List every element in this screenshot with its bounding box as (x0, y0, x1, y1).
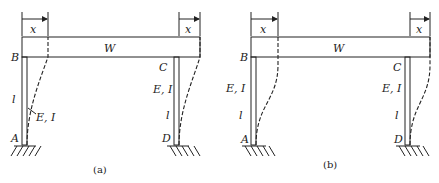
displacement-label-right-b: x (416, 23, 423, 36)
stiffness-label-right-b: E, I (381, 82, 402, 95)
node-label-d-b: D (393, 133, 403, 146)
caption-a: (a) (93, 164, 107, 175)
beam-label-b: W (333, 42, 346, 55)
node-label-b-b: B (239, 51, 248, 64)
beam-label-a: W (104, 42, 117, 55)
column-cd-a (174, 57, 179, 145)
fixed-support-d-a (167, 146, 200, 156)
length-label-left-b: l (239, 109, 243, 122)
displacement-label-right-a: x (185, 23, 192, 36)
node-label-c-a: C (159, 61, 168, 74)
length-label-right-b: l (395, 109, 399, 122)
stiffness-label-left-b: E, I (225, 82, 246, 95)
length-label-left-a: l (12, 93, 16, 106)
figure-b: x x W B C A D E, I l E, I l (225, 12, 430, 170)
displacement-arrow-right-b: x (410, 12, 430, 36)
node-label-a-b: A (240, 133, 249, 146)
figure-a: x x W B C A D l E, I E, I l (10, 12, 200, 175)
stiffness-label-right-a: E, I (152, 83, 173, 96)
displacement-label-left-a: x (30, 23, 37, 36)
displacement-label-left-b: x (260, 23, 267, 36)
node-label-a-a: A (10, 132, 19, 145)
node-label-d-a: D (161, 132, 171, 145)
displacement-arrow-left-b: x (251, 12, 278, 36)
node-label-b-a: B (10, 51, 19, 64)
fixed-support-d-b (396, 146, 429, 156)
deflection-curve-right-b (410, 37, 430, 145)
node-label-c-b: C (393, 61, 402, 74)
fixed-support-a-a (11, 146, 41, 156)
column-cd-b (405, 57, 410, 145)
deflection-curve-right-a (179, 37, 200, 145)
displacement-arrow-right-a: x (179, 12, 200, 36)
column-ab-b (251, 57, 256, 145)
caption-b: (b) (323, 159, 337, 170)
length-label-right-a: l (166, 109, 170, 122)
stiffness-label-left-a: E, I (35, 111, 56, 124)
fixed-support-a-b (242, 146, 275, 156)
displacement-arrow-left-a: x (22, 12, 48, 36)
column-ab-a (22, 57, 27, 145)
deflection-curve-left-b (256, 37, 278, 145)
deflection-curve-left-a (27, 37, 48, 145)
